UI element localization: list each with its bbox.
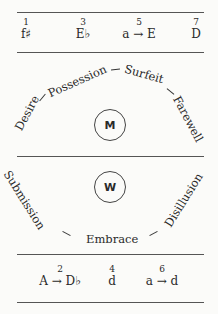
- top-cell-1: 1 f♯: [6, 17, 46, 41]
- arc-dash: [62, 231, 70, 236]
- bottom-cell-4: 4 d: [92, 264, 132, 288]
- bottom-cell-6: 6 a → d: [142, 264, 182, 288]
- arc-word-possession: Possession: [46, 62, 109, 100]
- arc-word-embrace: Embrace: [86, 232, 138, 246]
- cell-number: 2: [38, 264, 82, 274]
- arc-dash: [39, 94, 46, 102]
- cell-number: 5: [119, 17, 159, 27]
- cell-number: 3: [63, 17, 103, 27]
- cell-key: d: [92, 274, 132, 288]
- cell-key: D: [176, 27, 216, 41]
- cell-number: 7: [176, 17, 216, 27]
- arc-word-desire: Desire: [12, 93, 42, 133]
- arc-word-disillusion: Disillusion: [161, 170, 205, 229]
- bottom-cell-2: 2 A → D♭: [38, 264, 82, 288]
- m-circle: M: [94, 109, 126, 141]
- arc-word-farewell: Farewell: [170, 93, 206, 144]
- cell-key: E♭: [63, 27, 103, 41]
- cell-key: a → E: [119, 27, 159, 41]
- middle-rule: [17, 156, 204, 157]
- w-circle: W: [94, 171, 126, 203]
- top-rule-lower: [17, 52, 204, 53]
- cell-number: 4: [92, 264, 132, 274]
- cell-key: A → D♭: [38, 274, 82, 288]
- arc-word-surfeit: Surfeit: [123, 62, 165, 87]
- arc-word-submission: Submission: [1, 168, 48, 232]
- arc-dash: [167, 88, 175, 94]
- top-cell-5: 5 a → E: [119, 17, 159, 41]
- bottom-rule-lower: [17, 302, 204, 303]
- cell-key: f♯: [6, 27, 46, 41]
- top-cell-3: 3 E♭: [63, 17, 103, 41]
- cell-number: 1: [6, 17, 46, 27]
- arc-dash: [111, 69, 120, 71]
- arc-dash: [149, 231, 157, 236]
- top-rule-upper: [17, 12, 204, 13]
- cell-key: a → d: [142, 274, 182, 288]
- bottom-rule-upper: [17, 254, 204, 255]
- cell-number: 6: [142, 264, 182, 274]
- top-cell-7: 7 D: [176, 17, 216, 41]
